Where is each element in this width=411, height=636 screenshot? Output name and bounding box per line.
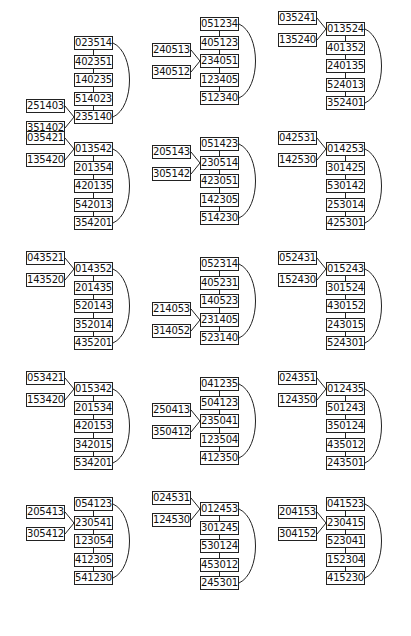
chain-node: 412350 (200, 451, 239, 465)
side-node: 143520 (26, 273, 65, 287)
chain-node: 041523 (326, 497, 365, 511)
chain-node: 201534 (74, 401, 113, 415)
side-node: 240513 (152, 43, 191, 57)
side-node: 035421 (26, 131, 65, 145)
chain-node: 123054 (74, 534, 113, 548)
chain-node: 013542 (74, 142, 113, 156)
chain-node: 231405 (200, 313, 239, 327)
chain-node: 501243 (326, 401, 365, 415)
side-node: 250413 (152, 403, 191, 417)
side-node: 124350 (278, 393, 317, 407)
chain-node: 015342 (74, 382, 113, 396)
chain-node: 523140 (200, 331, 239, 345)
chain-node: 425301 (326, 216, 365, 230)
chain-node: 230514 (200, 156, 239, 170)
chain-node: 243501 (326, 456, 365, 470)
side-node: 142530 (278, 153, 317, 167)
chain-node: 123405 (200, 73, 239, 87)
chain-node: 230415 (326, 516, 365, 530)
chain-node: 234051 (200, 54, 239, 68)
chain-node: 301524 (326, 281, 365, 295)
chain-node: 514023 (74, 92, 113, 106)
chain-node: 140523 (200, 294, 239, 308)
diagram-canvas: 0235144023511402355140232351402514033514… (0, 0, 411, 636)
chain-node: 423051 (200, 174, 239, 188)
side-node: 305412 (26, 527, 65, 541)
chain-node: 201354 (74, 161, 113, 175)
chain-node: 243015 (326, 318, 365, 332)
chain-node: 401352 (326, 41, 365, 55)
chain-node: 420135 (74, 179, 113, 193)
chain-node: 023514 (74, 36, 113, 50)
side-node: 350412 (152, 425, 191, 439)
side-node: 042531 (278, 131, 317, 145)
side-node: 152430 (278, 273, 317, 287)
side-node: 251403 (26, 99, 65, 113)
chain-node: 352014 (74, 318, 113, 332)
side-node: 135420 (26, 153, 65, 167)
chain-node: 534201 (74, 456, 113, 470)
chain-node: 530142 (326, 179, 365, 193)
side-node: 124530 (152, 513, 191, 527)
chain-node: 530124 (200, 539, 239, 553)
chain-node: 301425 (326, 161, 365, 175)
chain-node: 052314 (200, 257, 239, 271)
chain-node: 253014 (326, 198, 365, 212)
chain-node: 152304 (326, 553, 365, 567)
chain-node: 015243 (326, 262, 365, 276)
chain-node: 142305 (200, 193, 239, 207)
chain-node: 405123 (200, 36, 239, 50)
side-node: 043521 (26, 251, 65, 265)
side-node: 205413 (26, 505, 65, 519)
chain-node: 523041 (326, 534, 365, 548)
chain-node: 245301 (200, 576, 239, 590)
chain-node: 051234 (200, 17, 239, 31)
side-node: 135240 (278, 33, 317, 47)
chain-node: 524013 (326, 78, 365, 92)
chain-node: 402351 (74, 55, 113, 69)
side-node: 214053 (152, 302, 191, 316)
side-node: 340512 (152, 65, 191, 79)
chain-node: 435012 (326, 438, 365, 452)
side-node: 035241 (278, 11, 317, 25)
chain-node: 054123 (74, 497, 113, 511)
chain-node: 013524 (326, 22, 365, 36)
chain-node: 514230 (200, 211, 239, 225)
chain-node: 014253 (326, 142, 365, 156)
side-node: 305142 (152, 167, 191, 181)
chain-node: 012435 (326, 382, 365, 396)
chain-node: 420153 (74, 419, 113, 433)
chain-node: 415230 (326, 571, 365, 585)
chain-node: 435201 (74, 336, 113, 350)
chain-node: 051423 (200, 137, 239, 151)
chain-node: 140235 (74, 73, 113, 87)
chain-node: 512340 (200, 91, 239, 105)
side-node: 024531 (152, 491, 191, 505)
chain-node: 524301 (326, 336, 365, 350)
chain-node: 301245 (200, 521, 239, 535)
chain-node: 230541 (74, 516, 113, 530)
chain-node: 201435 (74, 281, 113, 295)
chain-node: 123504 (200, 433, 239, 447)
chain-node: 541230 (74, 571, 113, 585)
chain-node: 504123 (200, 396, 239, 410)
chain-node: 412305 (74, 553, 113, 567)
side-node: 024351 (278, 371, 317, 385)
chain-node: 235041 (200, 414, 239, 428)
chain-node: 240135 (326, 59, 365, 73)
chain-node: 453012 (200, 558, 239, 572)
side-node: 052431 (278, 251, 317, 265)
chain-node: 342015 (74, 438, 113, 452)
side-node: 053421 (26, 371, 65, 385)
chain-node: 235140 (74, 110, 113, 124)
side-node: 304152 (278, 527, 317, 541)
chain-node: 014352 (74, 262, 113, 276)
side-node: 204153 (278, 505, 317, 519)
chain-node: 520143 (74, 299, 113, 313)
side-node: 314052 (152, 324, 191, 338)
chain-node: 352401 (326, 96, 365, 110)
chain-node: 350124 (326, 419, 365, 433)
side-node: 153420 (26, 393, 65, 407)
chain-node: 542013 (74, 198, 113, 212)
chain-node: 405231 (200, 276, 239, 290)
